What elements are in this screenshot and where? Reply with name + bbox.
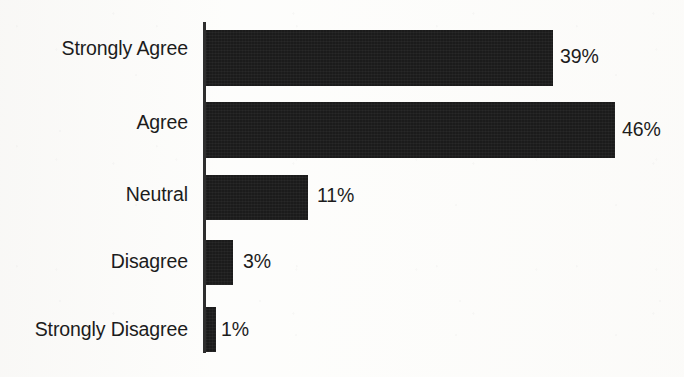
bar-agree <box>206 102 615 158</box>
value-label-agree: 46% <box>622 118 661 141</box>
bar-row: Strongly Disagree 1% <box>0 302 684 366</box>
bar-strongly-disagree <box>206 307 216 352</box>
category-label-disagree: Disagree <box>0 250 188 273</box>
bar-row: Disagree 3% <box>0 234 684 298</box>
bar-neutral <box>206 175 308 220</box>
bar-chart: Strongly Agree 39% Agree 46% Neutral 11%… <box>0 0 684 377</box>
bar-disagree <box>206 240 233 285</box>
category-label-strongly-disagree: Strongly Disagree <box>0 318 188 341</box>
value-label-disagree: 3% <box>243 250 271 273</box>
bar-strongly-agree <box>206 30 553 86</box>
value-label-strongly-disagree: 1% <box>221 318 249 341</box>
bar-row: Neutral 11% <box>0 168 684 232</box>
category-label-agree: Agree <box>0 111 188 134</box>
bar-row: Agree 46% <box>0 92 684 156</box>
category-label-strongly-agree: Strongly Agree <box>0 37 188 60</box>
value-label-strongly-agree: 39% <box>560 45 599 68</box>
category-label-neutral: Neutral <box>0 183 188 206</box>
plot-area: Strongly Agree 39% Agree 46% Neutral 11%… <box>0 0 684 377</box>
value-label-neutral: 11% <box>317 184 354 207</box>
bar-row: Strongly Agree 39% <box>0 22 684 86</box>
